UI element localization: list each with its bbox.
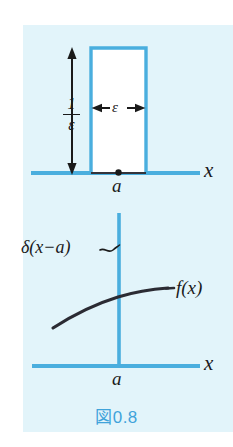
function-label-leader xyxy=(166,288,174,289)
width-label-epsilon: ε xyxy=(112,100,118,115)
bottom-tick-label-a: a xyxy=(112,369,122,388)
height-label-one-over-epsilon: 1 ε xyxy=(63,96,80,133)
fraction-bar xyxy=(63,114,80,116)
height-label-numerator: 1 xyxy=(67,96,77,112)
function-label-fx: f(x) xyxy=(176,278,202,297)
top-tick-label-a: a xyxy=(112,176,122,195)
delta-function-label: δ(x−a) xyxy=(21,238,71,256)
height-label-denominator: ε xyxy=(67,117,75,133)
figure-caption: 図0.8 xyxy=(0,403,233,428)
top-axis-label-x: x xyxy=(204,160,213,181)
figure-container: 1 ε ε a x δ(x−a) f(x) a x 図0.8 xyxy=(0,0,233,447)
bottom-axis-label-x: x xyxy=(204,353,213,374)
